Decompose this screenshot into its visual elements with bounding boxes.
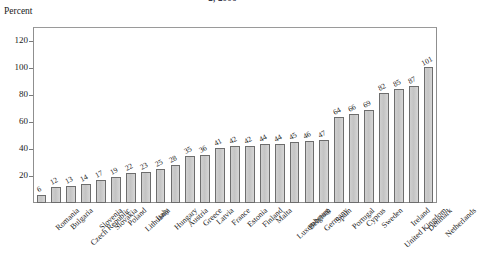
bar[interactable]: 46 [302,28,317,203]
bar[interactable]: 42 [228,28,243,203]
y-axis-tick-mark [29,68,33,69]
bar-value-label: 12 [49,175,60,187]
chart-title: 2, 2006 [0,0,445,3]
bar-rect [156,169,166,203]
bar[interactable]: 36 [198,28,213,203]
plot-area: 6121314171922232528353641424244444546476… [34,28,436,203]
bar-value-label: 45 [287,131,298,143]
bar[interactable]: 6 [34,28,49,203]
bar-value-label: 17 [93,168,104,180]
bar-value-label: 36 [198,143,209,155]
bar-rect [215,148,225,203]
bar-rect [51,187,61,203]
bar-rect [66,186,76,204]
bar-value-label: 35 [183,144,194,156]
bar-value-label: 66 [347,102,358,114]
bar[interactable]: 42 [242,28,257,203]
bar-rect [349,114,359,203]
bar[interactable]: 44 [257,28,272,203]
bar-value-label: 42 [242,135,253,147]
bar-value-label: 46 [302,129,313,141]
bar-rect [200,155,210,203]
bar-value-label: 28 [168,154,179,166]
bar-value-label: 14 [79,172,90,184]
y-axis-tick-label: 120 [15,35,29,45]
bar-rect [409,86,419,203]
bar[interactable]: 23 [138,28,153,203]
bar[interactable]: 12 [49,28,64,203]
bar-rect [334,117,344,203]
y-axis-tick-mark [29,122,33,123]
bar[interactable]: 41 [213,28,228,203]
bar-value-label: 41 [213,136,224,148]
y-axis-tick-mark [29,176,33,177]
bar[interactable]: 45 [287,28,302,203]
bar[interactable]: 17 [94,28,109,203]
bar[interactable]: 14 [79,28,94,203]
y-axis-tick-label: 60 [19,116,28,126]
bar-rect [245,146,255,203]
bar-value-label: 101 [419,54,433,67]
bar[interactable]: 85 [391,28,406,203]
bar[interactable]: 69 [362,28,377,203]
bar-rect [37,195,47,203]
bar[interactable]: 82 [376,28,391,203]
bar-value-label: 6 [36,184,44,194]
bar[interactable]: 87 [406,28,421,203]
bar-value-label: 87 [406,74,417,86]
bar[interactable]: 44 [272,28,287,203]
y-axis-tick-mark [29,41,33,42]
bar[interactable]: 64 [332,28,347,203]
bar-value-label: 64 [332,105,343,117]
bar[interactable]: 101 [421,28,436,203]
bar-rect [424,67,434,203]
bar-rect [96,180,106,203]
bar-value-label: 47 [317,128,328,140]
bar[interactable]: 66 [347,28,362,203]
bar-rect [364,110,374,203]
bar-value-label: 44 [257,132,268,144]
y-axis-tick-label: 80 [19,89,28,99]
bar-value-label: 25 [153,158,164,170]
bar-rect [305,141,315,203]
bar-rect [379,93,389,203]
y-axis-tick-label: 40 [19,143,28,153]
bar-rect [126,173,136,203]
bar-value-label: 85 [391,77,402,89]
bar-value-label: 69 [361,98,372,110]
bar-value-label: 82 [376,81,387,93]
bar[interactable]: 35 [183,28,198,203]
y-axis-tick-mark [29,149,33,150]
bar-rect [230,146,240,203]
bar-rect [111,177,121,203]
bar-value-label: 13 [64,174,75,186]
bar-rect [290,142,300,203]
y-axis-caption: Percent [4,6,33,16]
bar-value-label: 22 [123,162,134,174]
bar[interactable]: 25 [153,28,168,203]
bar-rect [394,89,404,203]
bar-rect [185,156,195,203]
bar-value-label: 23 [138,160,149,172]
bar-rect [260,144,270,203]
bar[interactable]: 22 [123,28,138,203]
y-axis-tick-mark [29,95,33,96]
bar-rect [141,172,151,203]
bar-rect [319,140,329,203]
bar-rect [81,184,91,203]
bar[interactable]: 28 [168,28,183,203]
bar-value-label: 42 [227,135,238,147]
bar[interactable]: 47 [317,28,332,203]
bar[interactable]: 13 [64,28,79,203]
bar-rect [171,165,181,203]
bar[interactable]: 19 [108,28,123,203]
bar-rect [275,144,285,203]
y-axis-tick-label: 20 [19,170,28,180]
y-axis-tick-label: 100 [15,62,29,72]
bar-value-label: 44 [272,132,283,144]
bar-value-label: 19 [108,166,119,178]
